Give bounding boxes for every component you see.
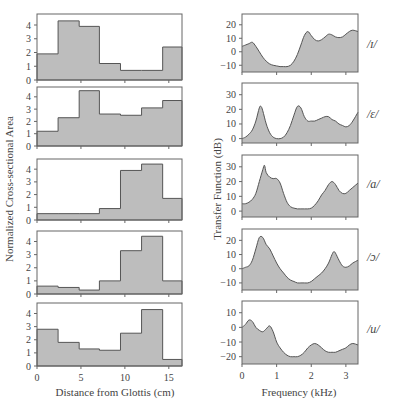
- x-tick-label: 2: [309, 370, 314, 381]
- y-tick-label: 20: [226, 19, 236, 30]
- y-tick-label: 2: [26, 262, 31, 273]
- y-tick-label: 3: [26, 104, 31, 115]
- y-tick-label: 0: [26, 215, 31, 226]
- y-tick-label: 0: [231, 263, 236, 274]
- x-tick-label: 5: [78, 372, 83, 383]
- y-tick-label: 1: [26, 275, 31, 286]
- y-tick-label: 10: [226, 33, 236, 44]
- y-tick-label: 10: [226, 307, 236, 318]
- y-tick-label: 3: [26, 33, 31, 44]
- y-tick-label: 0: [231, 133, 236, 144]
- area-panel: 01234: [26, 231, 182, 300]
- transfer-function-panels: −100102001020300102030−1001020−20−100100…: [220, 14, 358, 381]
- area-step-fill: [37, 91, 182, 146]
- y-tick-label: 20: [226, 235, 236, 246]
- y-tick-label: 10: [226, 191, 236, 202]
- y-tick-label: 10: [226, 249, 236, 260]
- area-panel: 01234: [26, 87, 182, 152]
- transfer-panel: −20−100100123: [220, 301, 358, 381]
- y-tick-label: 4: [26, 164, 31, 175]
- y-tick-label: 1: [26, 202, 31, 213]
- x-tick-label: 1: [274, 370, 279, 381]
- y-tick-label: 0: [26, 289, 31, 300]
- left-x-axis-label: Distance from Glottis (cm): [40, 386, 190, 398]
- y-tick-label: 0: [26, 361, 31, 372]
- left-y-axis-label: Normalized Cross-sectional Area: [3, 104, 15, 274]
- y-tick-label: 10: [226, 118, 236, 129]
- area-step-fill: [37, 164, 182, 220]
- x-tick-label: 10: [120, 372, 130, 383]
- transfer-panel: 0102030: [226, 83, 358, 146]
- y-tick-label: −20: [220, 351, 236, 362]
- y-tick-label: −10: [220, 60, 236, 71]
- y-tick-label: 4: [26, 308, 31, 319]
- y-tick-label: 30: [226, 89, 236, 100]
- y-tick-label: 0: [231, 206, 236, 217]
- transfer-panel: −1001020: [220, 14, 358, 75]
- vowel-label-u: /u/: [367, 322, 380, 337]
- y-tick-label: 2: [26, 116, 31, 127]
- y-tick-label: 20: [226, 104, 236, 115]
- area-step-fill: [37, 21, 182, 80]
- y-tick-label: 0: [26, 141, 31, 152]
- area-step-fill: [37, 236, 182, 294]
- right-x-axis-label: Frequency (kHz): [244, 386, 354, 398]
- x-tick-label: 0: [35, 372, 40, 383]
- y-tick-label: 3: [26, 176, 31, 187]
- transfer-panel: −1001020: [220, 229, 358, 293]
- y-tick-label: 20: [226, 176, 236, 187]
- y-tick-label: 4: [26, 236, 31, 247]
- y-tick-label: 1: [26, 347, 31, 358]
- y-tick-label: 2: [26, 334, 31, 345]
- transfer-fill: [242, 320, 358, 364]
- y-tick-label: 2: [26, 47, 31, 58]
- vowel-label-epsilon: /ɛ/: [367, 107, 378, 122]
- y-tick-label: 1: [26, 61, 31, 72]
- y-tick-label: 3: [26, 321, 31, 332]
- y-tick-label: 0: [26, 75, 31, 86]
- transfer-panel: 0102030: [226, 155, 358, 220]
- y-tick-label: 4: [26, 20, 31, 31]
- area-panel: 01234: [26, 159, 182, 226]
- vowel-label-a: /a/: [367, 177, 380, 192]
- x-tick-label: 15: [164, 372, 174, 383]
- figure-canvas: 0123401234012340123401234051015 −1001020…: [0, 0, 395, 406]
- y-tick-label: −10: [220, 337, 236, 348]
- area-panel: 01234051015: [26, 303, 182, 383]
- y-tick-label: 4: [26, 91, 31, 102]
- area-step-fill: [37, 310, 182, 366]
- x-tick-label: 0: [240, 370, 245, 381]
- area-function-panels: 0123401234012340123401234051015: [26, 14, 182, 383]
- right-y-axis-label: Transfer Function (dB): [211, 104, 223, 274]
- y-tick-label: 0: [231, 46, 236, 57]
- x-tick-label: 3: [343, 370, 348, 381]
- vowel-label-i: /ɪ/: [367, 37, 377, 52]
- y-tick-label: −10: [220, 277, 236, 288]
- y-tick-label: 3: [26, 249, 31, 260]
- y-tick-label: 2: [26, 189, 31, 200]
- y-tick-label: 1: [26, 128, 31, 139]
- y-tick-label: 0: [231, 322, 236, 333]
- y-tick-label: 30: [226, 161, 236, 172]
- vowel-label-open-o: /ɔ/: [367, 250, 379, 265]
- area-panel: 01234: [26, 14, 182, 86]
